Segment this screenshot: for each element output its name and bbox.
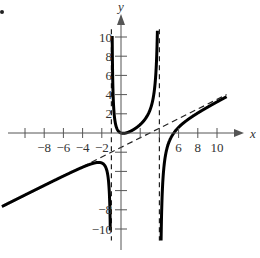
function-curve-branch (2, 162, 110, 230)
y-axis-arrow (117, 14, 125, 25)
function-curve-branch (112, 31, 157, 134)
x-axis-arrow (234, 129, 244, 137)
x-tick-label: 10 (211, 140, 224, 155)
x-tick-label: −8 (37, 140, 51, 155)
x-tick-label: −6 (56, 140, 70, 155)
y-tick-label: 2 (106, 106, 113, 121)
y-tick-label: 10 (99, 30, 112, 45)
y-tick-label: −10 (92, 222, 112, 237)
x-tick-label: −4 (76, 140, 90, 155)
x-axis-label: x (249, 126, 256, 141)
chart: xy−8−6−4−26810108642−8−10 (0, 0, 260, 258)
curve-group (2, 31, 227, 241)
y-axis-label: y (116, 0, 124, 14)
y-tick-label: 8 (106, 49, 113, 64)
function-curve-branch (161, 97, 227, 241)
y-tick-label: 6 (106, 68, 113, 83)
x-tick-label: 8 (195, 140, 202, 155)
y-tick-label: 4 (106, 87, 113, 102)
x-tick-label: 6 (175, 140, 182, 155)
x-tick-label: −2 (95, 140, 109, 155)
asymptote-group (2, 29, 227, 240)
y-tick-label: −8 (98, 202, 112, 217)
